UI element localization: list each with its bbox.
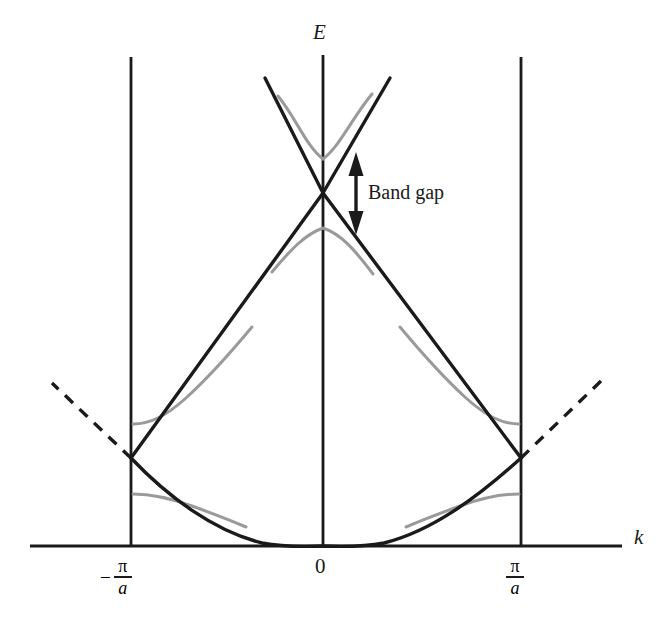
x-tick-label-negative-pi-over-a: − π a: [100, 557, 132, 597]
axes-group: [30, 55, 622, 546]
valence-band-parabola: [131, 458, 521, 547]
dashed-extension-left: [52, 383, 131, 458]
nearly-free-electron-curves-group: [133, 94, 519, 527]
band-gap-arrow-head-up: [349, 152, 364, 176]
folded-band-right-branch: [323, 193, 521, 458]
conduction-band-left-branch: [265, 78, 323, 193]
free-electron-curves-group: [131, 78, 521, 547]
fraction-denominator-a: a: [508, 578, 523, 597]
band-structure-figure: E k 0 Band gap − π a π a: [0, 0, 665, 622]
x-axis-label-k: k: [634, 527, 643, 548]
fraction-pi-over-a-left: π a: [114, 557, 132, 597]
band-gap-label: Band gap: [368, 182, 444, 202]
x-tick-label-zero: 0: [315, 556, 326, 577]
fraction-pi-over-a-right: π a: [506, 557, 524, 597]
y-axis-label-E: E: [313, 22, 326, 43]
zone-boundary-group: [131, 57, 521, 546]
minus-sign: −: [100, 567, 111, 589]
x-tick-label-positive-pi-over-a: π a: [506, 557, 524, 597]
dashed-extension-group: [52, 381, 601, 458]
fraction-numerator-pi: π: [507, 557, 522, 576]
band-structure-plot: [0, 0, 665, 622]
gray-curve-lower-band-right-boundary: [406, 494, 519, 527]
dashed-extension-right: [521, 381, 601, 458]
folded-band-left-branch: [131, 193, 323, 458]
fraction-denominator-a: a: [115, 578, 130, 597]
fraction-numerator-pi: π: [115, 557, 130, 576]
gray-curve-upper-band-center: [278, 94, 372, 159]
band-gap-arrow: [349, 152, 364, 235]
